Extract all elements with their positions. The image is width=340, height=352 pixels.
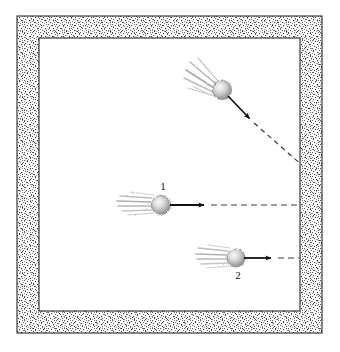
ball-label-2: 2 [235, 269, 241, 281]
inner-chamber [40, 39, 299, 310]
ball-label-1: 1 [160, 180, 166, 192]
ball-head-1 [152, 196, 171, 215]
physics-diagram: 1 2 [0, 0, 340, 352]
ball-head-2 [227, 249, 245, 267]
figure-canvas: 1 2 [0, 0, 340, 352]
